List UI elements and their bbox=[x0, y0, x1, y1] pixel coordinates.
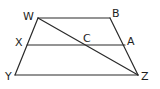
label-z: Z bbox=[141, 70, 149, 83]
segments bbox=[15, 18, 138, 75]
label-x: X bbox=[15, 36, 23, 49]
segment-wz-diagonal bbox=[38, 18, 138, 75]
label-c: C bbox=[83, 32, 91, 45]
label-a: A bbox=[127, 35, 135, 48]
label-b: B bbox=[112, 7, 120, 20]
label-w: W bbox=[23, 10, 34, 23]
label-y: Y bbox=[4, 70, 12, 83]
trapezoid-diagram: W B X C A Y Z bbox=[0, 0, 160, 89]
